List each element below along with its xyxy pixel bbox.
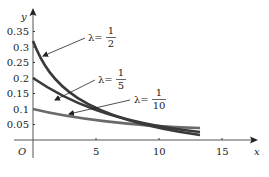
curves	[33, 41, 200, 135]
lambda-1-5-num: 1	[118, 67, 124, 78]
y-tick-0.3: 0.3	[13, 42, 29, 53]
y-tick-0.05: 0.05	[7, 119, 29, 130]
lambda-1-2-den: 2	[108, 38, 114, 49]
lambda-label-1-2: λ=	[88, 32, 103, 43]
y-tick-0.1: 0.1	[13, 104, 29, 115]
lambda-1-10-num: 1	[156, 87, 162, 98]
y-axis-label: y	[20, 11, 27, 22]
y-tick-0.25: 0.25	[7, 57, 29, 68]
x-tick-10: 10	[153, 146, 166, 157]
x-tick-15: 15	[216, 146, 229, 157]
y-tick-0.2: 0.2	[13, 73, 29, 84]
arrow-lambda-1-2	[43, 38, 85, 56]
lambda-label-1-5: λ=	[98, 74, 113, 85]
x-tick-5: 5	[93, 146, 99, 157]
exponential-density-chart: x y O 5 10 15 0.05 0.1 0.15 0.2 0.25 0.3…	[0, 0, 269, 177]
annotations: λ= 1 2 λ= 1 5 λ= 1 10	[43, 25, 166, 114]
y-tick-0.15: 0.15	[7, 88, 29, 99]
lambda-1-5-den: 5	[118, 80, 124, 91]
y-tick-0.35: 0.35	[7, 26, 29, 37]
y-ticks: 0.05 0.1 0.15 0.2 0.25 0.3 0.35	[7, 26, 35, 130]
x-axis-label: x	[254, 146, 260, 157]
curve-lambda-1-10	[33, 109, 200, 128]
origin-label: O	[18, 146, 26, 157]
curve-lambda-1-5	[33, 78, 200, 132]
lambda-1-2-num: 1	[108, 25, 114, 36]
x-ticks: 5 10 15	[93, 138, 229, 157]
curve-lambda-1-2	[33, 41, 200, 135]
lambda-label-1-10: λ=	[134, 94, 149, 105]
axes: x y O	[14, 8, 260, 158]
lambda-1-10-den: 10	[153, 100, 166, 111]
